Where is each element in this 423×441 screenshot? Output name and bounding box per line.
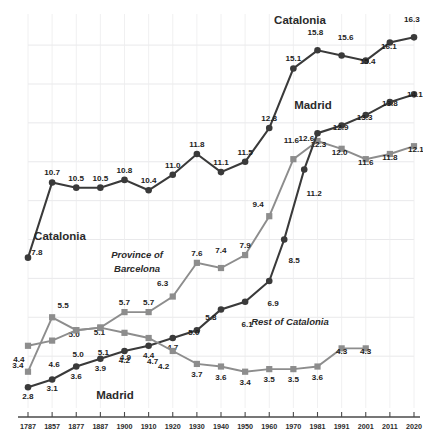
data-point-label: 12.6 bbox=[299, 134, 315, 143]
x-axis-tick-label: 1960 bbox=[261, 422, 277, 431]
data-point bbox=[266, 278, 273, 285]
data-point-label: 3.7 bbox=[191, 370, 203, 379]
data-point bbox=[266, 125, 273, 132]
data-point-label: 3.6 bbox=[71, 372, 83, 381]
data-point-label: 7.4 bbox=[215, 246, 227, 255]
data-point bbox=[218, 265, 224, 271]
data-point-label: 7.8 bbox=[31, 248, 43, 257]
data-point bbox=[73, 327, 79, 333]
annotation-catalonia-left: Catalonia bbox=[34, 230, 86, 242]
data-point-label: 6.3 bbox=[157, 279, 169, 288]
data-point bbox=[146, 335, 152, 341]
data-point bbox=[242, 369, 248, 375]
x-axis-tick-label: 1920 bbox=[165, 422, 181, 431]
data-point-label: 5.5 bbox=[57, 301, 69, 310]
data-point-label: 10.5 bbox=[68, 174, 84, 183]
data-point bbox=[25, 254, 32, 261]
data-point-label: 16.3 bbox=[404, 15, 420, 24]
annotation-rest-of-catalonia: Rest of Catalonia bbox=[251, 316, 329, 327]
data-point-label: 2.8 bbox=[22, 392, 34, 401]
data-point-label: 11.1 bbox=[213, 158, 229, 167]
data-point bbox=[290, 366, 296, 372]
data-point-label: 5.0 bbox=[188, 328, 200, 337]
data-point bbox=[49, 179, 56, 186]
x-axis-tick-label: 1887 bbox=[92, 422, 108, 431]
x-axis-tick-label: 1991 bbox=[334, 422, 350, 431]
annotation-barcelona-2: Barcelona bbox=[114, 263, 160, 274]
data-point-label: 10.5 bbox=[92, 174, 108, 183]
data-point-label: 5.8 bbox=[205, 313, 217, 322]
data-point-label: 11.6 bbox=[284, 136, 300, 145]
annotation-barcelona-1: Province of bbox=[111, 249, 164, 260]
data-point-label: 11.2 bbox=[307, 189, 323, 198]
data-point-label: 3.9 bbox=[95, 364, 107, 373]
data-point-label: 11.6 bbox=[358, 158, 374, 167]
data-point-label: 8.5 bbox=[289, 256, 301, 265]
data-point-label: 15.8 bbox=[308, 28, 324, 37]
data-point bbox=[97, 184, 104, 191]
data-point bbox=[25, 343, 31, 349]
data-point bbox=[25, 384, 32, 391]
data-point-label: 9.4 bbox=[253, 200, 265, 209]
data-point bbox=[194, 361, 200, 367]
x-axis-tick-label: 1970 bbox=[285, 422, 301, 431]
data-point bbox=[121, 177, 128, 184]
data-point bbox=[73, 184, 80, 191]
data-point-label: 4.6 bbox=[48, 360, 60, 369]
data-point bbox=[218, 169, 225, 176]
data-point-label: 4.4 bbox=[13, 355, 25, 364]
data-point-label: 4.2 bbox=[158, 362, 170, 371]
data-point bbox=[242, 252, 248, 258]
annotation-catalonia-top: Catalonia bbox=[274, 14, 326, 26]
data-point-label: 10.8 bbox=[117, 166, 133, 175]
data-point bbox=[49, 376, 56, 383]
data-point-label: 5.7 bbox=[119, 298, 131, 307]
data-point-label: 12.8 bbox=[261, 114, 277, 123]
data-point-label: 4.3 bbox=[336, 347, 348, 356]
x-axis-tick-label: 1940 bbox=[213, 422, 229, 431]
data-point bbox=[97, 325, 103, 331]
data-point-label: 7.9 bbox=[239, 241, 251, 250]
data-point bbox=[242, 298, 249, 305]
data-point bbox=[194, 151, 201, 158]
data-point-label: 3.5 bbox=[288, 375, 300, 384]
data-point bbox=[290, 156, 296, 162]
data-point bbox=[314, 363, 320, 369]
data-point-label: 15.1 bbox=[285, 54, 301, 63]
data-point bbox=[146, 309, 152, 315]
data-point-label: 13.3 bbox=[357, 113, 373, 122]
data-point-label: 7.6 bbox=[191, 249, 203, 258]
x-axis-tick-label: 1900 bbox=[117, 422, 133, 431]
data-point bbox=[218, 363, 224, 369]
data-point-label: 12.1 bbox=[408, 145, 423, 154]
data-point-label: 12.9 bbox=[333, 123, 349, 132]
data-point-label: 4.9 bbox=[120, 353, 132, 362]
data-point-label: 5.7 bbox=[143, 298, 155, 307]
data-point bbox=[73, 363, 80, 370]
data-point bbox=[49, 338, 55, 344]
chart-canvas: 1787185718771887190019101920193019401950… bbox=[0, 0, 423, 441]
annotation-madrid-bottom: Madrid bbox=[96, 389, 134, 401]
data-point-label: 5.1 bbox=[98, 348, 110, 357]
data-point-label: 10.4 bbox=[141, 176, 157, 185]
data-point bbox=[170, 348, 176, 354]
data-point-label: 11.8 bbox=[382, 153, 398, 162]
x-axis-tick-label: 2011 bbox=[382, 422, 398, 431]
data-point-label: 11.5 bbox=[237, 148, 253, 157]
data-point-label: 3.6 bbox=[312, 373, 324, 382]
data-point bbox=[266, 366, 272, 372]
data-point-label: 12.0 bbox=[332, 148, 348, 157]
data-point-label: 3.4 bbox=[239, 378, 251, 387]
data-point-label: 5.0 bbox=[73, 350, 85, 359]
data-point bbox=[121, 309, 127, 315]
data-point-label: 3.6 bbox=[215, 373, 227, 382]
data-point-label: 13.8 bbox=[382, 99, 398, 108]
data-point bbox=[169, 171, 176, 178]
line-chart: 1787185718771887190019101920193019401950… bbox=[0, 0, 423, 441]
x-axis-tick-label: 1910 bbox=[141, 422, 157, 431]
data-point bbox=[121, 330, 127, 336]
data-point-label: 15.4 bbox=[360, 57, 376, 66]
data-point bbox=[411, 34, 418, 41]
data-point bbox=[169, 335, 176, 342]
data-point-label: 15.6 bbox=[338, 33, 354, 42]
